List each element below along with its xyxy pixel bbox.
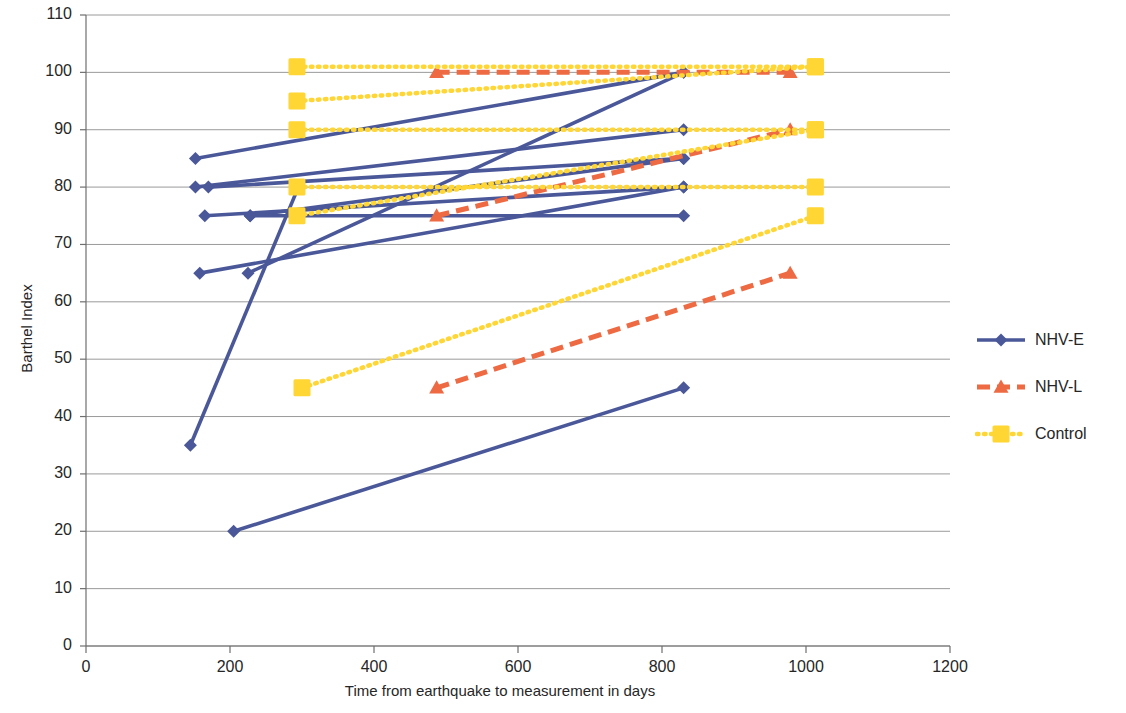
square-marker [807, 58, 824, 75]
legend-item-control[interactable]: Control [975, 424, 1087, 444]
y-tick-label: 30 [12, 464, 72, 482]
diamond-marker [184, 439, 197, 452]
diamond-marker [995, 334, 1008, 347]
x-tick-label: 400 [344, 658, 404, 676]
diamond-marker [677, 381, 690, 394]
square-marker [288, 121, 305, 138]
y-tick-label: 20 [12, 521, 72, 539]
legend-swatch-triangle-icon [975, 377, 1027, 397]
diamond-marker [677, 209, 690, 222]
square-marker [288, 93, 305, 110]
x-tick-label: 200 [200, 658, 260, 676]
y-tick-label: 10 [12, 579, 72, 597]
series-line [195, 130, 683, 187]
x-tick-label: 600 [488, 658, 548, 676]
legend-swatch-square-icon [975, 424, 1027, 444]
legend-label: NHV-E [1035, 331, 1084, 349]
chart-plot-area [0, 0, 1126, 713]
diamond-marker [198, 209, 211, 222]
diamond-marker [242, 267, 255, 280]
legend-label: Control [1035, 425, 1087, 443]
legend-label: NHV-L [1035, 378, 1082, 396]
axis-ticks [80, 15, 950, 653]
y-axis-title: Barthel Index [18, 249, 35, 409]
x-axis-title: Time from earthquake to measurement in d… [0, 682, 1000, 699]
square-marker [288, 207, 305, 224]
diamond-marker [227, 525, 240, 538]
diamond-marker [202, 181, 215, 194]
series-line [195, 72, 683, 158]
y-tick-label: 0 [12, 636, 72, 654]
diamond-marker [193, 267, 206, 280]
legend-item-nhv-l[interactable]: NHV-L [975, 377, 1082, 397]
series-nhv-l [429, 65, 798, 394]
y-tick-label: 110 [12, 5, 72, 23]
square-marker [288, 58, 305, 75]
series-line [437, 273, 791, 388]
square-marker [294, 379, 311, 396]
square-marker [807, 121, 824, 138]
square-marker [993, 426, 1010, 443]
series-line [190, 187, 298, 445]
x-tick-label: 1200 [920, 658, 980, 676]
legend-item-nhv-e[interactable]: NHV-E [975, 330, 1084, 350]
series-line [297, 130, 815, 216]
legend-swatch-diamond-icon [975, 330, 1027, 350]
y-tick-label: 90 [12, 120, 72, 138]
x-tick-label: 0 [56, 658, 116, 676]
series-line [234, 388, 684, 531]
diamond-marker [189, 152, 202, 165]
diamond-marker [189, 181, 202, 194]
y-tick-label: 40 [12, 407, 72, 425]
series-control [288, 58, 823, 396]
square-marker [288, 179, 305, 196]
y-tick-label: 100 [12, 62, 72, 80]
triangle-marker [783, 266, 798, 279]
x-tick-label: 1000 [776, 658, 836, 676]
square-marker [807, 179, 824, 196]
square-marker [807, 207, 824, 224]
axis-lines [86, 15, 950, 646]
x-tick-label: 800 [632, 658, 692, 676]
gridlines [86, 15, 950, 646]
y-tick-label: 80 [12, 177, 72, 195]
chart-container: 0102030405060708090100110 02004006008001… [0, 0, 1126, 713]
